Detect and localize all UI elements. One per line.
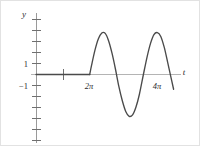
sine-graph-figure: y 1 −1 t 2π 4π xyxy=(0,0,200,146)
plot-canvas: y 1 −1 t 2π 4π xyxy=(1,1,200,146)
y-axis-group: y 1 −1 xyxy=(19,9,41,143)
x-axis-label: t xyxy=(183,67,186,77)
x-tick-label-two-pi: 2π xyxy=(85,81,94,91)
x-tick-label-four-pi: 4π xyxy=(153,81,162,91)
x-axis-group: t 2π 4π xyxy=(31,67,186,91)
y-axis-label: y xyxy=(21,9,26,19)
y-tick-label-one: 1 xyxy=(24,59,28,69)
y-tick-label-negative-one: −1 xyxy=(19,81,28,91)
